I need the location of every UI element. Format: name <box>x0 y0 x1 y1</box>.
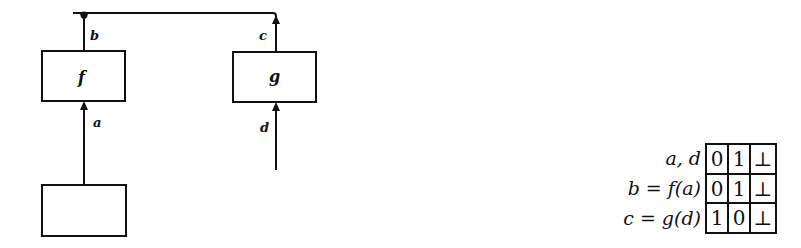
cell: 1 <box>729 175 751 203</box>
truth-table-row: b = f(a) 0 1 ⊥ <box>580 173 777 203</box>
row-cells: 0 1 ⊥ <box>705 173 777 203</box>
cell: 0 <box>707 145 729 173</box>
arrowhead-c-icon <box>272 15 280 24</box>
cell: ⊥ <box>751 145 775 173</box>
arrowhead-a-icon <box>80 101 88 110</box>
cell: ⊥ <box>751 175 775 203</box>
row-label: b = f(a) <box>580 177 701 199</box>
box-g-label: g <box>269 67 280 86</box>
wire-label-b: b <box>90 28 99 43</box>
cell: 0 <box>707 175 729 203</box>
arrowhead-d-icon <box>272 102 280 111</box>
cell: 1 <box>729 145 751 173</box>
junction-node-icon <box>81 12 88 19</box>
box-f-label: f <box>77 68 88 87</box>
row-cells: 0 1 ⊥ <box>705 143 777 173</box>
truth-table-row: a, d 0 1 ⊥ <box>580 143 777 173</box>
row-label: c = g(d) <box>580 207 701 229</box>
wire-label-d: d <box>260 120 269 135</box>
row-cells: 1 0 ⊥ <box>705 202 777 234</box>
wire-label-a: a <box>93 115 101 130</box>
truth-table: a, d 0 1 ⊥ b = f(a) 0 1 ⊥ c = g(d) 1 0 ⊥ <box>580 143 777 233</box>
feedback-wire <box>73 13 276 22</box>
wire-label-c: c <box>259 28 267 43</box>
row-label: a, d <box>580 147 701 169</box>
cell: ⊥ <box>751 204 775 232</box>
truth-table-row: c = g(d) 1 0 ⊥ <box>580 203 777 233</box>
cell: 1 <box>707 204 729 232</box>
box-source <box>42 185 126 236</box>
cell: 0 <box>729 204 751 232</box>
